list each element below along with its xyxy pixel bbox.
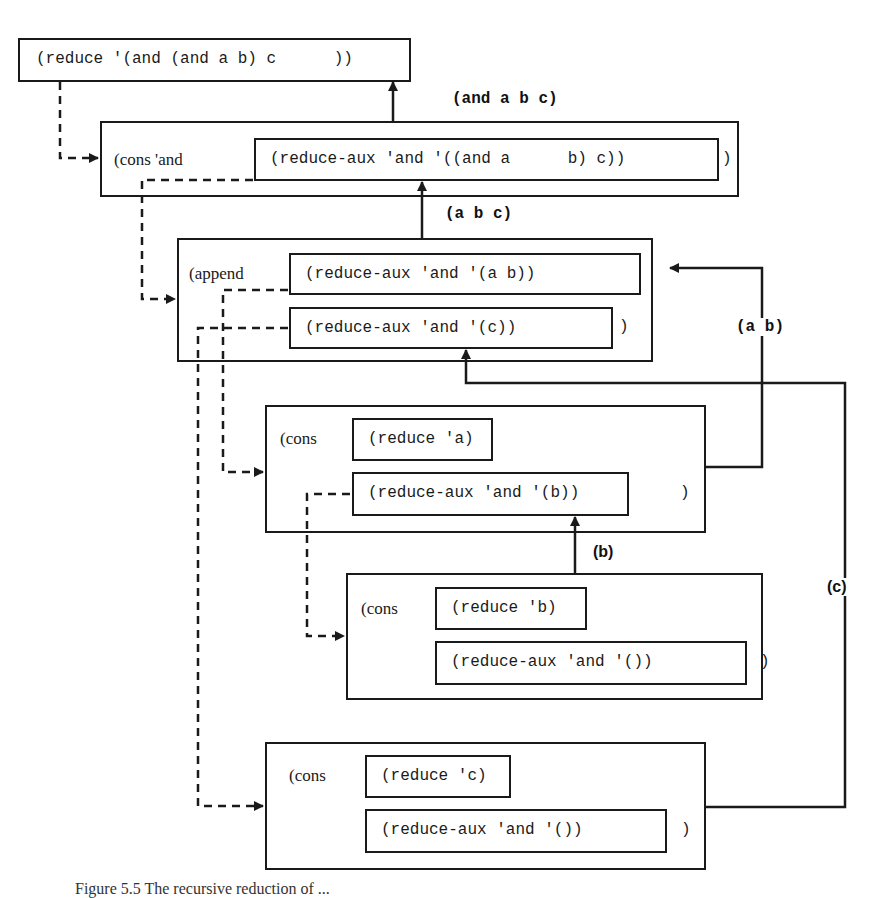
append-reduce-aux-c-text: (reduce-aux 'and '(c)) (305, 319, 516, 337)
reduce-b-text: (reduce 'b) (451, 599, 557, 617)
append-prefix: (append (189, 264, 244, 284)
append-reduce-aux-ab-text: (reduce-aux 'and '(a b)) (305, 265, 535, 283)
reduce-a-text: (reduce 'a) (368, 430, 474, 448)
cons-b-prefix: (cons (361, 599, 398, 619)
call-arrow-cons-and (60, 82, 98, 158)
cons-a-prefix: (cons (280, 429, 317, 449)
cons-b-close: ) (760, 653, 770, 671)
cons-a-reduce-aux-b-text: (reduce-aux 'and '(b)) (368, 484, 579, 502)
figure-caption: Figure 5.5 The recursive reduction of ..… (75, 880, 330, 898)
reduce-a-box: (reduce 'a) (352, 418, 493, 461)
reduce-b-box: (reduce 'b) (435, 587, 587, 630)
return-label-c: (c) (827, 578, 847, 596)
call-arrow-cons-c (198, 328, 288, 806)
cons-a-reduce-aux-b-box: (reduce-aux 'and '(b)) (352, 472, 629, 516)
cons-c-close: ) (681, 821, 691, 839)
cons-c-reduce-aux-empty-text: (reduce-aux 'and '()) (381, 821, 583, 839)
return-label-b: (b) (593, 543, 613, 561)
top-reduce-text: (reduce '(and (and a b) c )) (36, 50, 353, 68)
append-reduce-aux-c-box: (reduce-aux 'and '(c)) (289, 307, 613, 349)
cons-and-prefix: (cons 'and (114, 150, 183, 170)
cons-a-close: ) (680, 484, 690, 502)
reduce-c-box: (reduce 'c) (365, 755, 511, 798)
cons-and-reduce-aux-box: (reduce-aux 'and '((and a b) c)) (254, 138, 719, 181)
cons-c-reduce-aux-empty-box: (reduce-aux 'and '()) (365, 809, 667, 853)
cons-and-close: ) (722, 150, 732, 168)
cons-b-reduce-aux-empty-text: (reduce-aux 'and '()) (451, 653, 653, 671)
reduce-c-text: (reduce 'c) (381, 767, 487, 785)
return-label-abc: (a b c) (445, 205, 512, 223)
return-label-and-abc: (and a b c) (452, 90, 558, 108)
cons-b-reduce-aux-empty-box: (reduce-aux 'and '()) (435, 641, 747, 685)
append-reduce-aux-ab-box: (reduce-aux 'and '(a b)) (289, 253, 641, 295)
return-label-ab: (a b) (736, 318, 784, 336)
append-close: ) (619, 318, 629, 336)
cons-c-prefix: (cons (289, 766, 326, 786)
cons-and-reduce-aux-text: (reduce-aux 'and '((and a b) c)) (270, 150, 625, 168)
top-reduce-box: (reduce '(and (and a b) c )) (18, 38, 411, 82)
